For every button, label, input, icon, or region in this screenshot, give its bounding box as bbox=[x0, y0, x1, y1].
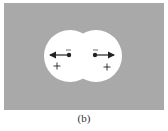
figure-caption: (b) bbox=[0, 112, 168, 124]
diagram-figure: (b) bbox=[0, 0, 168, 131]
left-electron-dot bbox=[67, 53, 71, 57]
right-electron-dot bbox=[93, 53, 97, 57]
